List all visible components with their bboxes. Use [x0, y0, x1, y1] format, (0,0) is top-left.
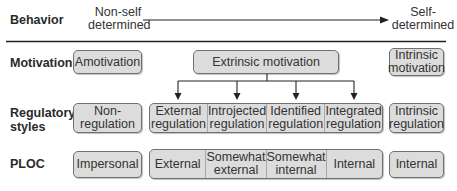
internal-ploc-cell: Internal [326, 150, 382, 178]
somewhat-internal-cell: Somewhat internal [266, 150, 326, 178]
cell-line2: regulation [210, 118, 265, 131]
regulatory-line1: Regulatory [10, 106, 75, 120]
external-regulation-cell: External regulation [150, 104, 207, 132]
non-regulation-box: Non- regulation [73, 103, 142, 133]
extrinsic-regulation-group: External regulation Introjected regulati… [149, 103, 383, 133]
regulatory-line2: styles [10, 120, 75, 134]
external-ploc-cell: External [150, 150, 205, 178]
cell-line2: regulation [268, 118, 323, 131]
non-self-line2: determined [88, 19, 148, 32]
impersonal-box: Impersonal [73, 151, 142, 178]
non-self-determined-label: Non-self determined [88, 6, 148, 32]
extrinsic-motivation-box: Extrinsic motivation [193, 50, 339, 74]
cell-line2: regulation [151, 118, 206, 131]
somewhat-external-cell: Somewhat external [205, 150, 265, 178]
intrinsic-motivation-line2: motivation [388, 62, 445, 75]
identified-regulation-cell: Identified regulation [266, 104, 324, 132]
row-label-behavior: Behavior [10, 13, 64, 27]
intrinsic-regulation-line2: regulation [389, 118, 444, 131]
cell-line2: internal [276, 164, 317, 177]
row-label-motivation: Motivation [10, 56, 73, 70]
cell-line2: external [214, 164, 258, 177]
cell-line2: regulation [326, 118, 381, 131]
amotivation-box: Amotivation [73, 50, 142, 74]
extrinsic-ploc-group: External Somewhat external Somewhat inte… [149, 149, 383, 179]
row-label-regulatory-styles: Regulatory styles [10, 106, 75, 134]
self-determined-label: Self- determined [390, 6, 456, 32]
introjected-regulation-cell: Introjected regulation [207, 104, 266, 132]
intrinsic-motivation-box: Intrinsic motivation [389, 48, 444, 76]
self-line2: determined [390, 19, 456, 32]
integrated-regulation-cell: Integrated regulation [324, 104, 382, 132]
non-regulation-line2: regulation [80, 118, 135, 131]
intrinsic-regulation-box: Intrinsic regulation [389, 103, 444, 133]
intrinsic-ploc-box: Internal [389, 151, 444, 178]
row-label-ploc: PLOC [10, 157, 45, 171]
